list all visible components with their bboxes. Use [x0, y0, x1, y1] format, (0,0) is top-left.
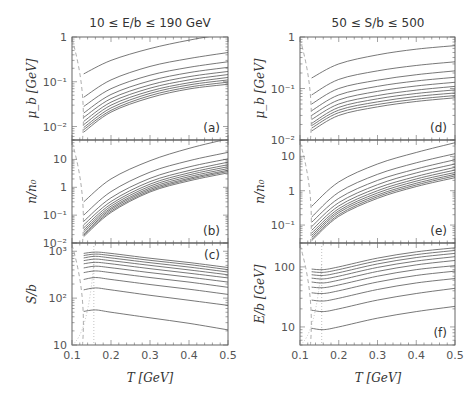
- x-tick-label: 0.3: [141, 349, 159, 362]
- series-curve: [312, 82, 455, 115]
- y-tick-label: 1: [60, 31, 67, 44]
- y-tick-label: 10: [281, 321, 295, 334]
- y-tick-label: 10³: [49, 245, 67, 258]
- series-curve: [84, 33, 228, 73]
- left-column-title: 10 ≤ E/b ≤ 190 GeV: [89, 16, 211, 30]
- x-tick-label: 0.1: [291, 349, 309, 362]
- y-tick-label: 10⁻²: [43, 121, 67, 134]
- y-tick-label: 10⁻¹: [43, 76, 67, 89]
- series-curve: [84, 288, 228, 305]
- series-curve: [84, 310, 228, 330]
- y-tick-label: 10⁻²: [271, 134, 295, 147]
- panel-b: 10110⁻¹10⁻²n/n₀(b): [25, 139, 228, 250]
- x-tick-label: 0.1: [63, 349, 81, 362]
- y-tick-label: 10: [53, 153, 67, 166]
- x-tick-label: 0.2: [330, 349, 348, 362]
- y-axis-label: n/n₀: [25, 179, 39, 204]
- plots: 110⁻¹10⁻²μ_b [GeV](a)10110⁻¹10⁻²n/n₀(b)1…: [25, 31, 464, 362]
- y-tick-label: 10⁻¹: [271, 83, 295, 96]
- series-curve: [312, 266, 455, 288]
- figure: 10 ≤ E/b ≤ 190 GeV 50 ≤ S/b ≤ 500 110⁻¹1…: [0, 0, 475, 398]
- x-tick-label: 0.2: [102, 349, 120, 362]
- x-tick-label: 0.5: [446, 349, 464, 362]
- series-curve: [84, 169, 228, 232]
- series-curve: [312, 271, 455, 293]
- y-tick-label: 1: [288, 185, 295, 198]
- series-curve: [84, 71, 228, 117]
- series-curve: [312, 154, 455, 217]
- panel-label: (c): [204, 248, 220, 262]
- y-tick-label: 10: [281, 150, 295, 163]
- y-axis-label: E/b [GeV]: [253, 264, 267, 324]
- series-curve: [312, 279, 455, 302]
- panel-label: (f): [433, 326, 447, 340]
- panel-e: 10110⁻¹n/n₀(e): [253, 140, 455, 243]
- panel-f: 10010E/b [GeV](f)0.10.20.30.40.5: [253, 243, 464, 362]
- panel-d: 110⁻¹10⁻²μ_b [GeV](d): [253, 31, 455, 147]
- y-tick-label: 1: [288, 31, 295, 44]
- panel-label: (d): [430, 121, 447, 135]
- y-tick-label: 1: [60, 181, 67, 194]
- series-curve: [84, 266, 228, 282]
- right-column-title: 50 ≤ S/b ≤ 500: [332, 16, 425, 30]
- series-curve: [84, 53, 228, 98]
- y-tick-label: 10²: [49, 292, 67, 305]
- panel-label: (b): [203, 224, 220, 238]
- panel-a: 110⁻¹10⁻²μ_b [GeV](a): [25, 31, 228, 140]
- y-axis-label: n/n₀: [253, 179, 267, 204]
- y-axis-label: μ_b [GeV]: [25, 58, 39, 118]
- series-curve: [312, 62, 455, 95]
- series-curve: [312, 260, 455, 283]
- y-axis-label: μ_b [GeV]: [253, 58, 267, 118]
- y-tick-label: 10⁻¹: [271, 219, 295, 232]
- series-curve: [312, 250, 455, 272]
- series-curve: [84, 62, 228, 107]
- x-tick-label: 0.5: [219, 349, 237, 362]
- y-axis-label: S/b: [25, 284, 39, 304]
- panel-c: 10³10²10S/b(c)0.10.20.30.40.5: [25, 243, 237, 362]
- y-tick-label: 10⁻¹: [43, 209, 67, 222]
- x-tick-label: 0.4: [180, 349, 198, 362]
- y-tick-label: 100: [274, 261, 295, 274]
- x-axis-label-right: T [GeV]: [355, 371, 402, 385]
- panel-label: (a): [203, 121, 220, 135]
- x-axis-label-left: T [GeV]: [127, 371, 174, 385]
- series-curve: [312, 71, 455, 104]
- x-tick-label: 0.4: [408, 349, 426, 362]
- panel-label: (e): [430, 224, 447, 238]
- series-curve: [84, 278, 228, 295]
- x-tick-label: 0.3: [369, 349, 387, 362]
